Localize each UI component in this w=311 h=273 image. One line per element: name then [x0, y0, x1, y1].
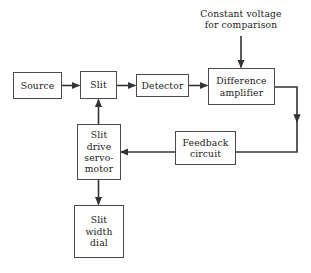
node-slit-label: Slit	[88, 79, 108, 90]
node-feedback-circuit[interactable]: Feedback circuit	[175, 131, 236, 165]
node-detector-label: Detector	[140, 80, 186, 91]
node-detector[interactable]: Detector	[136, 74, 189, 97]
node-source-label: Source	[19, 80, 57, 91]
node-slit-width-dial-label: Slit width dial	[83, 214, 114, 248]
connector-difference-amplifier-to-feedback-circuit-tail	[236, 118, 297, 152]
node-feedback-circuit-label: Feedback circuit	[181, 137, 231, 160]
node-slit[interactable]: Slit	[80, 71, 117, 99]
block-diagram: Constant voltage for comparison Source S…	[0, 0, 311, 273]
connector-layer	[0, 0, 311, 273]
node-slit-drive-servo-motor-label: Slit drive servo- motor	[82, 129, 115, 175]
constant-voltage-note: Constant voltage for comparison	[192, 8, 290, 31]
node-slit-width-dial[interactable]: Slit width dial	[74, 205, 124, 258]
node-difference-amplifier-label: Difference amplifier	[214, 75, 268, 98]
node-source[interactable]: Source	[13, 72, 62, 99]
node-difference-amplifier[interactable]: Difference amplifier	[208, 68, 275, 105]
node-slit-drive-servo-motor[interactable]: Slit drive servo- motor	[77, 124, 121, 180]
connector-difference-amplifier-to-feedback-circuit	[275, 87, 297, 122]
